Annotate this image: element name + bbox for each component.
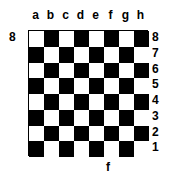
square-c4 bbox=[59, 94, 74, 110]
bottom-file-label: f bbox=[106, 160, 110, 174]
rank-label-3: 3 bbox=[152, 109, 159, 125]
square-c6 bbox=[59, 63, 74, 79]
square-c3 bbox=[59, 110, 74, 126]
square-g8 bbox=[119, 31, 134, 47]
square-c1 bbox=[59, 141, 74, 157]
square-d3 bbox=[74, 110, 89, 126]
square-f3 bbox=[104, 110, 119, 126]
square-a2 bbox=[29, 126, 44, 142]
square-f8 bbox=[104, 31, 119, 47]
square-d6 bbox=[74, 63, 89, 79]
square-f6 bbox=[104, 63, 119, 79]
square-e1 bbox=[89, 141, 104, 157]
file-label-d: d bbox=[73, 8, 88, 22]
square-b4 bbox=[44, 94, 59, 110]
square-e4 bbox=[89, 94, 104, 110]
square-c5 bbox=[59, 78, 74, 94]
rank-label-2: 2 bbox=[152, 125, 159, 141]
file-label-g: g bbox=[118, 8, 133, 22]
square-a7 bbox=[29, 47, 44, 63]
square-b5 bbox=[44, 78, 59, 94]
square-e3 bbox=[89, 110, 104, 126]
square-a6 bbox=[29, 63, 44, 79]
square-c2 bbox=[59, 126, 74, 142]
square-g7 bbox=[119, 47, 134, 63]
rank-label-4: 4 bbox=[152, 93, 159, 109]
square-b1 bbox=[44, 141, 59, 157]
square-a1 bbox=[29, 141, 44, 157]
file-label-h: h bbox=[133, 8, 148, 22]
square-b8 bbox=[44, 31, 59, 47]
square-f1 bbox=[104, 141, 119, 157]
square-h7 bbox=[134, 47, 149, 63]
rank-label-7: 7 bbox=[152, 46, 159, 62]
file-label-a: a bbox=[28, 8, 43, 22]
file-label-b: b bbox=[43, 8, 58, 22]
rank-label-5: 5 bbox=[152, 77, 159, 93]
square-f5 bbox=[104, 78, 119, 94]
square-c8 bbox=[59, 31, 74, 47]
square-e7 bbox=[89, 47, 104, 63]
square-h4 bbox=[134, 94, 149, 110]
left-rank-label: 8 bbox=[9, 30, 16, 45]
square-e5 bbox=[89, 78, 104, 94]
square-h1 bbox=[134, 141, 149, 157]
rank-label-8: 8 bbox=[152, 30, 159, 46]
rank-label-6: 6 bbox=[152, 62, 159, 78]
rank-labels: 8 7 6 5 4 3 2 1 bbox=[152, 30, 159, 156]
square-d5 bbox=[74, 78, 89, 94]
chessboard bbox=[28, 30, 148, 156]
square-d4 bbox=[74, 94, 89, 110]
square-c7 bbox=[59, 47, 74, 63]
file-label-e: e bbox=[88, 8, 103, 22]
square-g3 bbox=[119, 110, 134, 126]
square-a5 bbox=[29, 78, 44, 94]
square-e8 bbox=[89, 31, 104, 47]
square-b6 bbox=[44, 63, 59, 79]
square-a8 bbox=[29, 31, 44, 47]
square-e2 bbox=[89, 126, 104, 142]
square-e6 bbox=[89, 63, 104, 79]
square-a4 bbox=[29, 94, 44, 110]
file-label-c: c bbox=[58, 8, 73, 22]
square-d1 bbox=[74, 141, 89, 157]
square-g4 bbox=[119, 94, 134, 110]
square-d7 bbox=[74, 47, 89, 63]
square-g1 bbox=[119, 141, 134, 157]
rank-label-1: 1 bbox=[152, 140, 159, 156]
square-h8 bbox=[134, 31, 149, 47]
square-b7 bbox=[44, 47, 59, 63]
square-b3 bbox=[44, 110, 59, 126]
file-labels: a b c d e f g h bbox=[28, 8, 148, 22]
square-h2 bbox=[134, 126, 149, 142]
square-a3 bbox=[29, 110, 44, 126]
square-f2 bbox=[104, 126, 119, 142]
square-h3 bbox=[134, 110, 149, 126]
square-g5 bbox=[119, 78, 134, 94]
file-label-f: f bbox=[103, 8, 118, 22]
square-g2 bbox=[119, 126, 134, 142]
square-h5 bbox=[134, 78, 149, 94]
square-d2 bbox=[74, 126, 89, 142]
square-b2 bbox=[44, 126, 59, 142]
square-d8 bbox=[74, 31, 89, 47]
square-f7 bbox=[104, 47, 119, 63]
square-h6 bbox=[134, 63, 149, 79]
square-f4 bbox=[104, 94, 119, 110]
square-g6 bbox=[119, 63, 134, 79]
